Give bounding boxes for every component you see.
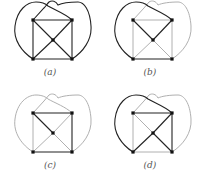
vertex-TR [70,18,73,21]
vertex-BL [31,150,34,153]
edge-TR-C [53,113,72,133]
graph-panel-a: (a) [0,0,100,93]
panel-caption: (d) [100,160,200,170]
edge-TR-C [153,113,172,133]
graph-drawing [0,0,100,93]
vertex-BR [70,57,73,60]
edge-BL-C [33,40,53,59]
vertex-C [51,131,54,134]
vertex-TR [170,111,173,114]
vertex-TR [70,111,73,114]
vertex-BR [170,150,173,153]
vertex-TL [131,18,134,21]
edge-BL-C [133,133,153,152]
edge-TL-C [33,20,53,40]
vertex-C [51,38,54,41]
edge-TL-C [133,113,153,133]
vertex-TR [170,18,173,21]
panel-caption: (a) [0,67,100,77]
graph-drawing [100,93,200,186]
panel-caption: (b) [100,67,200,77]
vertex-BR [70,150,73,153]
edge-TL-C [33,113,53,133]
edge-BR-C [53,133,72,152]
edge-BR-C [53,40,72,59]
edge-BL-C [133,40,153,59]
edge-TR-C [153,20,172,40]
vertex-BL [131,150,134,153]
edge-BR-C [153,133,172,152]
vertex-C [151,131,154,134]
graph-panel-b: (b) [100,0,200,93]
vertex-TL [131,111,134,114]
vertex-BL [31,57,34,60]
vertex-BL [131,57,134,60]
vertex-BR [170,57,173,60]
vertex-TL [31,18,34,21]
graph-panel-c: (c) [0,93,100,186]
edge-TL-C [133,20,153,40]
vertex-C [151,38,154,41]
graph-panel-d: (d) [100,93,200,186]
edge-TR-C [53,20,72,40]
edge-BR-C [153,40,172,59]
graph-drawing [100,0,200,93]
vertex-TL [31,111,34,114]
graph-drawing [0,93,100,186]
panel-caption: (c) [0,160,100,170]
edge-BL-C [33,133,53,152]
